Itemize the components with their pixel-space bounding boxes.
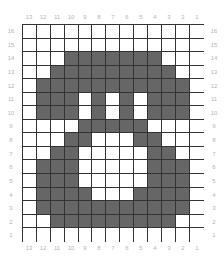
grid-cell (134, 160, 148, 174)
grid-cell (79, 188, 93, 202)
grid-cell (23, 93, 37, 107)
grid-cell (51, 201, 65, 215)
grid-cell (120, 174, 134, 188)
grid-cell (106, 39, 120, 53)
grid-cell (92, 106, 106, 120)
column-label-bottom: 8 (92, 244, 106, 252)
grid-cell (190, 93, 204, 107)
row-label-left: 16 (4, 27, 18, 35)
grid-cell (190, 52, 204, 66)
grid-cell (65, 188, 79, 202)
grid-cell (79, 174, 93, 188)
grid-cell (106, 147, 120, 161)
grid-cell (162, 201, 176, 215)
grid-cell (148, 228, 162, 242)
grid-cell (92, 201, 106, 215)
grid-cell (79, 120, 93, 134)
row-label-right: 10 (207, 109, 221, 117)
grid-cell (23, 79, 37, 93)
grid-cell (148, 215, 162, 229)
grid-cell (162, 25, 176, 39)
grid-cell (51, 215, 65, 229)
row-label-left: 3 (4, 204, 18, 212)
row-label-right: 12 (207, 82, 221, 90)
grid-cell (120, 147, 134, 161)
column-label-top: 8 (92, 13, 106, 21)
grid-cell (134, 201, 148, 215)
grid-cell (162, 52, 176, 66)
grid-cell (190, 39, 204, 53)
grid-cell (23, 120, 37, 134)
row-label-right: 11 (207, 95, 221, 103)
grid-cell (23, 106, 37, 120)
column-label-top: 10 (64, 13, 78, 21)
grid-cell (79, 25, 93, 39)
column-label-bottom: 13 (22, 244, 36, 252)
grid-cell (120, 39, 134, 53)
grid-cell (134, 174, 148, 188)
grid-cell (65, 120, 79, 134)
grid-cell (92, 66, 106, 80)
row-label-left: 1 (4, 231, 18, 239)
grid-cell (92, 160, 106, 174)
grid-cell (106, 160, 120, 174)
grid-cell (176, 52, 190, 66)
grid-cell (162, 133, 176, 147)
row-label-left: 7 (4, 150, 18, 158)
grid-cell (162, 106, 176, 120)
grid-cell (23, 52, 37, 66)
grid-cell (190, 133, 204, 147)
grid-cell (148, 79, 162, 93)
grid-cell (106, 106, 120, 120)
grid-cell (190, 120, 204, 134)
grid-cell (120, 133, 134, 147)
grid-cell (37, 215, 51, 229)
grid-cell (120, 201, 134, 215)
grid-cell (65, 147, 79, 161)
grid-cell (65, 39, 79, 53)
grid-cell (176, 25, 190, 39)
grid-cell (51, 25, 65, 39)
grid-cell (79, 160, 93, 174)
column-label-bottom: 6 (120, 244, 134, 252)
grid-cell (134, 39, 148, 53)
grid-cell (106, 215, 120, 229)
row-label-right: 5 (207, 177, 221, 185)
grid-cell (65, 160, 79, 174)
grid-cell (190, 188, 204, 202)
grid-cell (176, 160, 190, 174)
grid-cell (51, 79, 65, 93)
grid-cell (106, 188, 120, 202)
grid-cell (190, 160, 204, 174)
row-label-left: 9 (4, 122, 18, 130)
grid-cell (134, 120, 148, 134)
grid-cell (134, 93, 148, 107)
grid-cell (79, 79, 93, 93)
grid-cell (148, 120, 162, 134)
grid-cell (106, 79, 120, 93)
grid-cell (134, 133, 148, 147)
grid-cell (37, 106, 51, 120)
grid-cell (176, 228, 190, 242)
grid-cell (51, 66, 65, 80)
grid-cell (92, 52, 106, 66)
column-label-bottom: 5 (134, 244, 148, 252)
grid-cell (162, 120, 176, 134)
grid-cell (162, 39, 176, 53)
row-label-right: 16 (207, 27, 221, 35)
grid-cell (23, 215, 37, 229)
grid-cell (51, 188, 65, 202)
column-label-top: 4 (148, 13, 162, 21)
grid-cell (65, 25, 79, 39)
grid-cell (23, 188, 37, 202)
column-label-top: 5 (134, 13, 148, 21)
column-label-top: 6 (120, 13, 134, 21)
grid-cell (162, 79, 176, 93)
grid-cell (37, 133, 51, 147)
row-label-right: 7 (207, 150, 221, 158)
grid-cell (120, 228, 134, 242)
grid-cell (79, 106, 93, 120)
grid-cell (134, 52, 148, 66)
row-label-left: 8 (4, 136, 18, 144)
grid-cell (65, 174, 79, 188)
